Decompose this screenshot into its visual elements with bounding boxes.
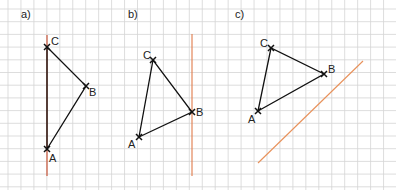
panel-a: a) C B A	[21, 8, 96, 176]
grid	[0, 0, 396, 190]
diagram: a) C B A b) C B A c) C B A	[0, 0, 396, 190]
point-b-label: B	[89, 86, 96, 98]
panel-b: b) C B A	[128, 8, 203, 176]
panel-b-label: b)	[128, 8, 138, 20]
point-markers	[255, 45, 327, 114]
panel-a-label: a)	[21, 8, 31, 20]
point-c-label: C	[143, 49, 151, 61]
point-a-label: A	[128, 138, 136, 150]
point-c-label: C	[51, 35, 59, 47]
point-markers	[136, 57, 195, 140]
grid-canvas: a) C B A b) C B A c) C B A	[0, 0, 396, 190]
point-b-label: B	[196, 106, 203, 118]
triangle	[139, 60, 192, 137]
axis-line	[258, 61, 363, 163]
point-c-label: C	[260, 37, 268, 49]
triangle	[258, 48, 324, 111]
point-a-label: A	[248, 113, 256, 125]
panel-c-label: c)	[235, 8, 244, 20]
point-a-label: A	[49, 152, 57, 164]
point-b-label: B	[328, 63, 335, 75]
